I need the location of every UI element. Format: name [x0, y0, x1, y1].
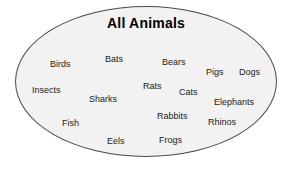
set-member-label: Rabbits [157, 111, 188, 121]
set-member-label: Frogs [159, 135, 182, 145]
set-member-label: Bats [105, 54, 123, 64]
set-member-label: Birds [50, 59, 71, 69]
set-member-label: Insects [32, 85, 61, 95]
set-member-label: Elephants [214, 97, 254, 107]
set-member-label: Bears [162, 57, 186, 67]
set-member-label: Rats [143, 81, 162, 91]
set-member-label: Sharks [89, 94, 117, 104]
set-member-label: Eels [107, 136, 125, 146]
diagram-title: All Animals [0, 15, 292, 31]
set-member-label: Fish [62, 118, 79, 128]
diagram-canvas: All Animals BirdsBatsBearsPigsDogsInsect… [0, 0, 292, 171]
set-member-label: Cats [179, 87, 198, 97]
set-member-label: Dogs [239, 67, 260, 77]
set-member-label: Rhinos [208, 117, 236, 127]
set-member-label: Pigs [206, 67, 224, 77]
